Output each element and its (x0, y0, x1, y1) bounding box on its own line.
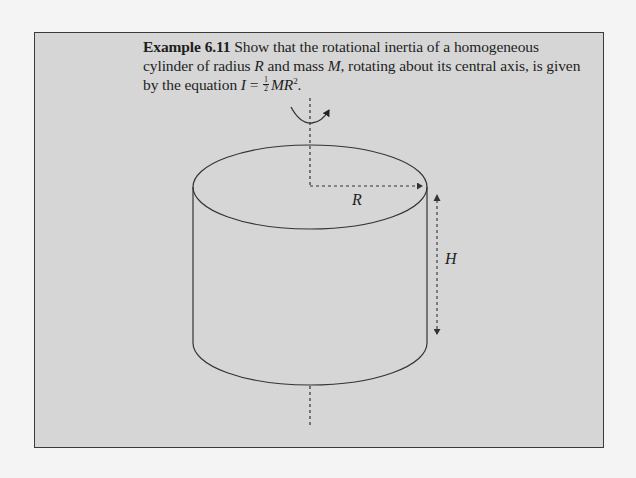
height-label: H (444, 250, 458, 267)
cylinder-bottom-arc (193, 343, 427, 385)
radius-label: R (351, 191, 362, 208)
height-arrow-top-head (434, 194, 441, 201)
rotation-arrow-icon (291, 107, 329, 123)
cylinder-diagram: R H (0, 0, 636, 478)
